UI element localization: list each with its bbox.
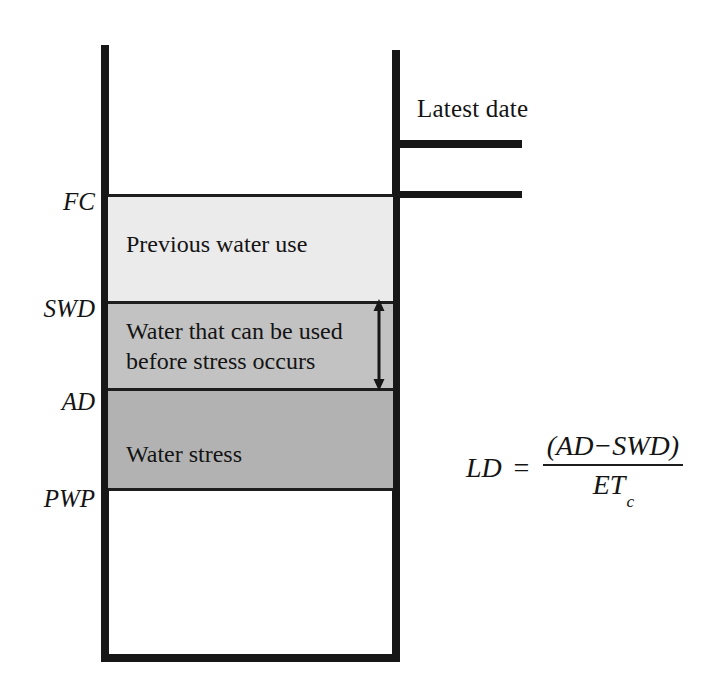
- field-capacity-extension-line: [392, 191, 522, 198]
- latest-date-equation: LD = (AD−SWD) ETc: [466, 430, 683, 506]
- axis-label-fc: FC: [63, 189, 95, 214]
- band-water-stress: Water stress: [108, 388, 393, 491]
- profile-right-wall: [392, 145, 400, 662]
- band-usable-water-label-line2: before stress occurs: [126, 346, 343, 376]
- equation-lhs: LD: [466, 452, 502, 484]
- latest-date-label: Latest date: [417, 95, 528, 123]
- usable-water-range-arrow-icon: [366, 298, 392, 392]
- equation-numerator: (AD−SWD): [543, 430, 683, 466]
- axis-label-pwp: PWP: [44, 486, 95, 511]
- band-usable-water: Water that can be used before stress occ…: [108, 301, 393, 388]
- equation-denominator-subscript: c: [626, 492, 634, 511]
- band-water-stress-label: Water stress: [126, 439, 242, 469]
- profile-bottom-wall: [101, 654, 400, 662]
- equation-denominator-base: ET: [593, 469, 626, 500]
- band-usable-water-label: Water that can be used before stress occ…: [126, 316, 343, 376]
- equation-equals-sign: =: [512, 452, 531, 484]
- equation-fraction: (AD−SWD) ETc: [543, 430, 683, 506]
- band-previous-water-use-label: Previous water use: [126, 229, 307, 259]
- latest-date-bracket-vertical: [392, 50, 400, 148]
- equation-denominator: ETc: [593, 466, 633, 506]
- axis-label-swd: SWD: [44, 296, 95, 321]
- figure-canvas: Latest date Previous water use Water tha…: [0, 0, 721, 696]
- band-usable-water-label-line1: Water that can be used: [126, 316, 343, 346]
- latest-date-bracket-horizontal: [392, 140, 522, 148]
- band-previous-water-use: Previous water use: [108, 194, 393, 301]
- axis-label-ad: AD: [62, 389, 95, 414]
